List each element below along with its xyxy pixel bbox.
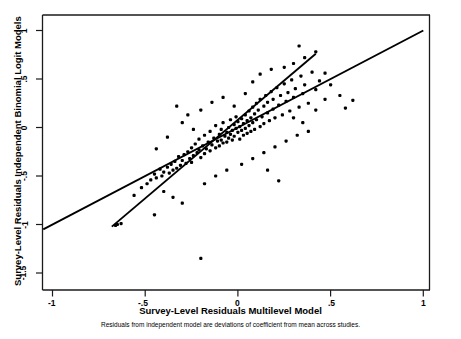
scatter-point <box>247 124 250 127</box>
scatter-point <box>251 157 254 160</box>
scatter-point <box>285 139 288 142</box>
scatter-point <box>273 145 276 148</box>
scatter-point <box>227 137 230 140</box>
scatter-point <box>259 125 262 128</box>
scatter-point <box>214 146 217 149</box>
scatter-point <box>251 121 254 124</box>
scatter-point <box>344 107 347 110</box>
scatter-point <box>181 159 184 162</box>
scatter-point <box>208 149 211 152</box>
scatter-point <box>262 122 265 125</box>
scatter-point <box>155 176 158 179</box>
y-tick-label-0: 0 <box>19 126 29 131</box>
scatter-point <box>314 88 317 91</box>
y-tick-label-1: 1 <box>19 29 29 34</box>
scatter-point <box>273 116 276 119</box>
scatter-point <box>266 169 269 172</box>
scatter-point <box>181 202 184 205</box>
scatter-point <box>181 121 184 124</box>
scatter-point <box>199 108 202 111</box>
scatter-point <box>270 68 273 71</box>
y-tick-label-m1: -1 <box>20 221 30 229</box>
scatter-point <box>120 222 123 225</box>
scatter-point <box>168 171 171 174</box>
figure-background <box>0 0 461 339</box>
scatter-point <box>190 146 193 149</box>
scatter-point <box>225 140 228 143</box>
y-tick-label-m0_5: -.5 <box>19 171 29 181</box>
scatter-point <box>240 129 243 132</box>
scatter-point <box>253 112 256 115</box>
scatter-point <box>297 106 300 109</box>
scatter-point <box>190 161 193 164</box>
scatter-point <box>272 98 275 101</box>
scatter-point <box>233 105 236 108</box>
scatter-point <box>283 82 286 85</box>
scatter-point <box>171 169 174 172</box>
scatter-point <box>175 105 178 108</box>
scatter-point <box>307 130 310 133</box>
scatter-point <box>221 141 224 144</box>
scatter-point <box>323 98 326 101</box>
scatter-point <box>210 101 213 104</box>
scatter-point <box>162 190 165 193</box>
scatter-point <box>145 182 148 185</box>
scatter-point <box>155 147 158 150</box>
scatter-point <box>249 116 252 119</box>
scatter-point <box>251 80 254 83</box>
scatter-point <box>297 44 300 47</box>
scatter-point <box>318 79 321 82</box>
scatter-point <box>279 94 282 97</box>
scatter-point <box>351 99 354 102</box>
scatter-point <box>266 101 269 104</box>
scatter-point <box>140 186 143 189</box>
scatter-point <box>292 116 295 119</box>
scatter-point <box>288 109 291 112</box>
scatter-point <box>218 144 221 147</box>
scatter-point <box>242 134 245 137</box>
scatter-point <box>233 135 236 138</box>
scatter-point <box>301 121 304 124</box>
scatter-point <box>194 142 197 145</box>
scatter-point <box>153 213 156 216</box>
scatter-point <box>338 94 341 97</box>
scatter-plot-figure <box>0 0 461 339</box>
scatter-point <box>208 130 211 133</box>
scatter-point <box>307 102 310 105</box>
y-axis-label: Survey-Level Residuals Independent Binom… <box>12 16 23 286</box>
scatter-point <box>240 163 243 166</box>
scatter-point <box>249 130 252 133</box>
scatter-point <box>283 66 286 69</box>
scatter-point <box>203 152 206 155</box>
scatter-point <box>214 174 217 177</box>
scatter-point <box>162 171 165 174</box>
scatter-point <box>329 83 332 86</box>
scatter-point <box>166 136 169 139</box>
y-tick-label-m1_5: -1.5 <box>18 266 28 281</box>
scatter-point <box>199 156 202 159</box>
scatter-point <box>323 72 326 75</box>
scatter-point <box>186 113 189 116</box>
scatter-point <box>234 115 237 118</box>
scatter-point <box>303 83 306 86</box>
scatter-point <box>296 134 299 137</box>
scatter-point <box>220 139 223 142</box>
scatter-point <box>229 118 232 121</box>
scatter-point <box>132 194 135 197</box>
scatter-point <box>166 166 169 169</box>
scatter-point <box>221 96 224 99</box>
scatter-point <box>290 78 293 81</box>
scatter-point <box>281 113 284 116</box>
scatter-point <box>303 56 306 59</box>
scatter-point <box>238 138 241 141</box>
scatter-point <box>203 134 206 137</box>
scatter-point <box>197 138 200 141</box>
scatter-point <box>225 169 228 172</box>
scatter-point <box>294 87 297 90</box>
scatter-point <box>220 128 223 131</box>
x-tick-label-0_5: .5 <box>328 298 335 308</box>
scatter-point <box>310 71 313 74</box>
scatter-point <box>253 128 256 131</box>
scatter-point <box>203 182 206 185</box>
scatter-point <box>314 108 317 111</box>
